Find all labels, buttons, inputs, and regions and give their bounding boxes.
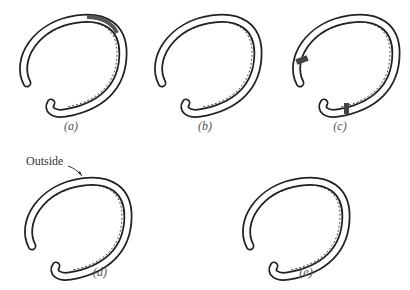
outside-callout: Outside <box>26 154 63 169</box>
horseshoe-figure <box>0 0 410 290</box>
panel-label-e: (e) <box>291 265 321 280</box>
panel-label-b: (b) <box>190 119 220 134</box>
panel-label-d: (d) <box>85 265 115 280</box>
horseshoe-c <box>295 18 396 114</box>
panel-label-c: (c) <box>325 119 355 134</box>
outside-arrow <box>68 166 82 176</box>
panel-label-a: (a) <box>56 119 86 134</box>
horseshoe-d <box>29 181 128 276</box>
horseshoe-e <box>247 181 346 276</box>
horseshoe-b <box>159 18 258 113</box>
horseshoe-a <box>24 17 123 113</box>
